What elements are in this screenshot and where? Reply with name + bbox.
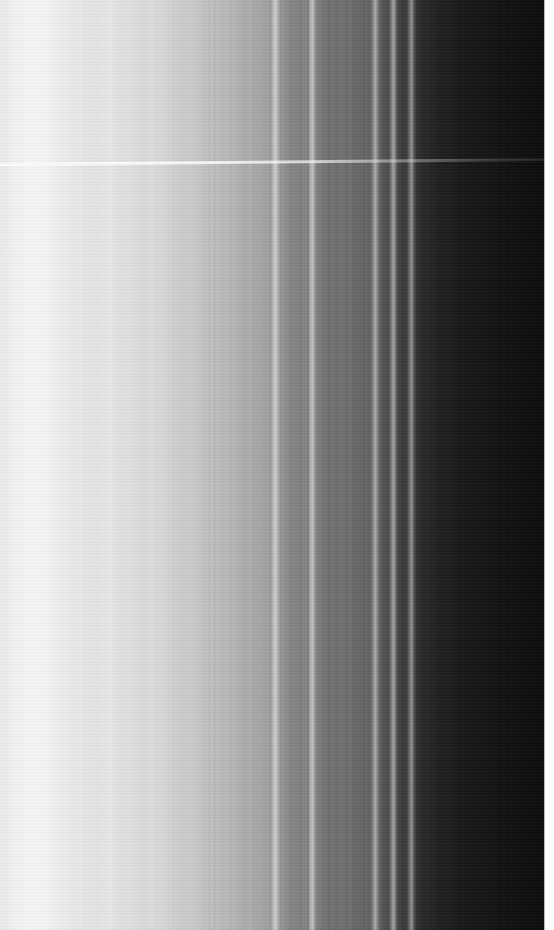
overscan-edge-strip <box>544 0 554 930</box>
sensor-row-noise <box>0 0 554 930</box>
ring-scan-image <box>0 0 554 930</box>
overscan-edge-border <box>544 0 545 930</box>
